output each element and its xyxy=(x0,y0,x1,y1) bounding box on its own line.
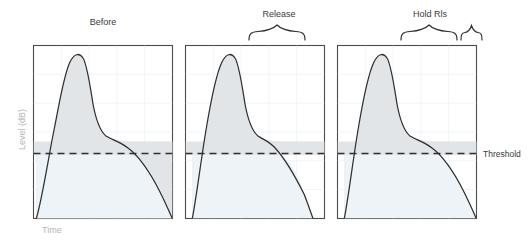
panel-release-fill-band xyxy=(186,142,325,156)
panel-before: Before Level (dB) Time xyxy=(17,17,173,235)
panel-hold-release-fill-band xyxy=(338,142,477,156)
panel-hold-release-brace-label: Hold Rls xyxy=(413,9,448,19)
panel-release-brace-label: Release xyxy=(262,9,295,19)
panel-before-fill-above-mask xyxy=(34,142,173,156)
compressor-envelope-figure: Before Level (dB) Time Release xyxy=(0,0,531,240)
threshold-label: Threshold xyxy=(483,149,521,159)
panel-before-title: Before xyxy=(90,17,117,27)
x-axis-label: Time xyxy=(42,225,62,235)
y-axis-label: Level (dB) xyxy=(17,109,27,150)
